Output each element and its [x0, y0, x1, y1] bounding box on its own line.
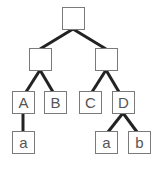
- node-A: A: [12, 91, 35, 114]
- node-left: [29, 48, 52, 71]
- node-D-b: b: [128, 131, 151, 154]
- edge-left-A: [26, 70, 40, 92]
- node-B: B: [44, 91, 67, 114]
- edge-root-right: [73, 29, 106, 49]
- edge-root-left: [40, 29, 73, 49]
- node-D-a: a: [95, 131, 118, 154]
- node-root: [62, 7, 85, 30]
- edge-D-a: [108, 113, 123, 132]
- node-right: [95, 48, 118, 71]
- node-A-a: a: [12, 131, 35, 154]
- edge-right-C: [92, 70, 106, 92]
- edge-D-b: [123, 113, 137, 132]
- edge-left-B: [40, 70, 53, 92]
- node-D: D: [112, 91, 135, 114]
- edge-right-D: [106, 70, 119, 92]
- node-C: C: [79, 91, 102, 114]
